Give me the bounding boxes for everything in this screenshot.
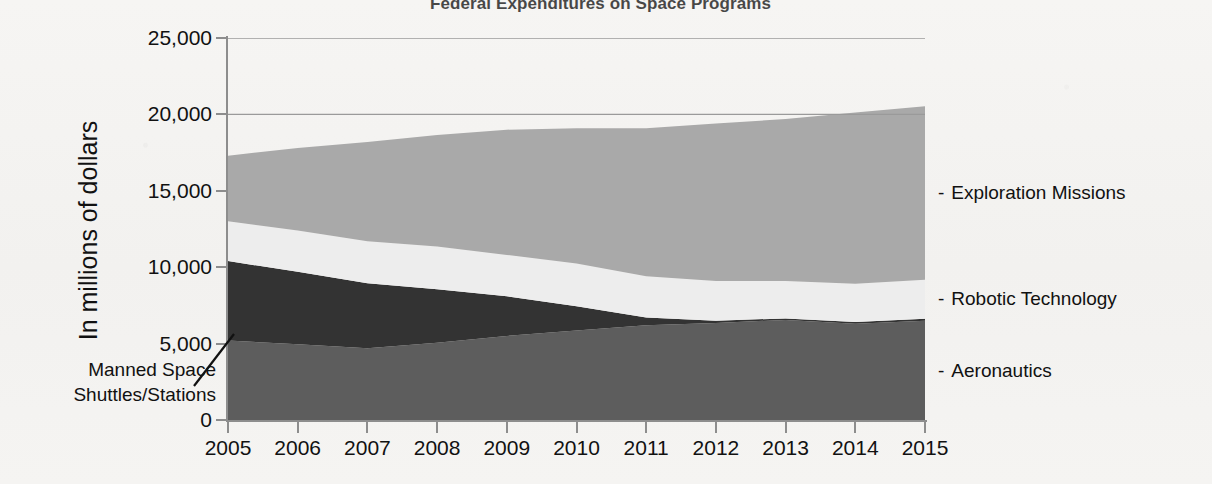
legend-label: Aeronautics xyxy=(951,360,1051,381)
x-tick-2009 xyxy=(506,422,508,433)
plot-svg xyxy=(228,38,925,420)
legend-item-robotic-technology[interactable]: -Robotic Technology xyxy=(938,288,1117,310)
x-tick-label-2008: 2008 xyxy=(414,436,461,460)
chart-title: Federal Expenditures on Space Programs xyxy=(430,0,950,16)
y-tick-15000 xyxy=(216,190,228,192)
x-tick-label-2012: 2012 xyxy=(693,436,740,460)
y-tick-label-0: 0 xyxy=(120,408,212,432)
callout-line-1: Manned Space xyxy=(6,358,216,383)
plot-area xyxy=(228,38,925,420)
y-tick-10000 xyxy=(216,266,228,268)
x-tick-label-2005: 2005 xyxy=(205,436,252,460)
y-tick-label-20000: 20,000 xyxy=(120,102,212,126)
x-tick-2006 xyxy=(297,422,299,433)
y-tick-25000 xyxy=(216,37,228,39)
x-tick-2012 xyxy=(715,422,717,433)
callout-leader-line xyxy=(190,330,238,390)
gridline-group xyxy=(228,38,925,114)
legend-label: Robotic Technology xyxy=(951,288,1116,309)
x-tick-label-2009: 2009 xyxy=(483,436,530,460)
legend-item-exploration-missions[interactable]: -Exploration Missions xyxy=(938,182,1126,204)
y-axis-title: In millions of dollars xyxy=(74,81,103,381)
x-tick-2008 xyxy=(436,422,438,433)
x-tick-label-2007: 2007 xyxy=(344,436,391,460)
legend-dash-icon: - xyxy=(938,288,944,309)
x-tick-2011 xyxy=(645,422,647,433)
legend-dash-icon: - xyxy=(938,360,944,381)
legend-label: Exploration Missions xyxy=(951,182,1125,203)
y-tick-label-25000: 25,000 xyxy=(120,26,212,50)
x-tick-2014 xyxy=(854,422,856,433)
x-tick-label-2015: 2015 xyxy=(902,436,949,460)
y-tick-0 xyxy=(216,419,228,421)
x-tick-2005 xyxy=(227,422,229,433)
y-tick-label-10000: 10,000 xyxy=(120,255,212,279)
area-series-group xyxy=(228,106,925,420)
x-tick-label-2013: 2013 xyxy=(762,436,809,460)
x-tick-label-2010: 2010 xyxy=(553,436,600,460)
x-tick-label-2006: 2006 xyxy=(274,436,321,460)
y-tick-label-15000: 15,000 xyxy=(120,179,212,203)
manned-space-callout: Manned Space Shuttles/Stations xyxy=(6,358,216,407)
x-tick-2010 xyxy=(576,422,578,433)
legend-item-aeronautics[interactable]: -Aeronautics xyxy=(938,360,1052,382)
x-tick-label-2014: 2014 xyxy=(832,436,879,460)
callout-line-2: Shuttles/Stations xyxy=(6,383,216,408)
x-tick-2013 xyxy=(785,422,787,433)
x-tick-label-2011: 2011 xyxy=(624,436,669,460)
x-tick-2015 xyxy=(924,422,926,433)
x-tick-2007 xyxy=(366,422,368,433)
legend-dash-icon: - xyxy=(938,182,944,203)
stacked-area-chart: Federal Expenditures on Space Programs I… xyxy=(0,0,1212,484)
y-tick-20000 xyxy=(216,113,228,115)
